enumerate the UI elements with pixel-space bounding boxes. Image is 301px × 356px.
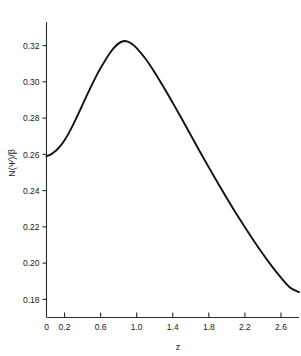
- x-tick-label: 1.0: [131, 322, 143, 332]
- x-tick-label: 0.6: [95, 322, 107, 332]
- chart-figure: 0.180.200.220.240.260.280.300.32 00.20.6…: [0, 0, 301, 356]
- y-tick-label: 0.28: [23, 113, 40, 123]
- x-tick-label: 1.8: [203, 322, 215, 332]
- y-tick-label: 0.26: [23, 150, 40, 160]
- y-tick-label: 0.18: [23, 295, 40, 305]
- x-tick-label: 0.2: [59, 322, 71, 332]
- x-tick-label: 0: [44, 322, 49, 332]
- x-tick-label: 1.4: [167, 322, 179, 332]
- x-axis-title: z: [176, 342, 181, 352]
- y-tick-label: 0.20: [23, 258, 40, 268]
- x-tick-label: 2.2: [239, 322, 251, 332]
- y-tick-label: 0.32: [23, 41, 40, 51]
- y-tick-label: 0.24: [23, 186, 40, 196]
- x-tick-label: 2.6: [275, 322, 287, 332]
- chart-background: [0, 0, 301, 356]
- y-tick-label: 0.22: [23, 222, 40, 232]
- y-tick-label: 0.30: [23, 77, 40, 87]
- y-axis-title: N(Ψ̇)/β: [7, 149, 17, 177]
